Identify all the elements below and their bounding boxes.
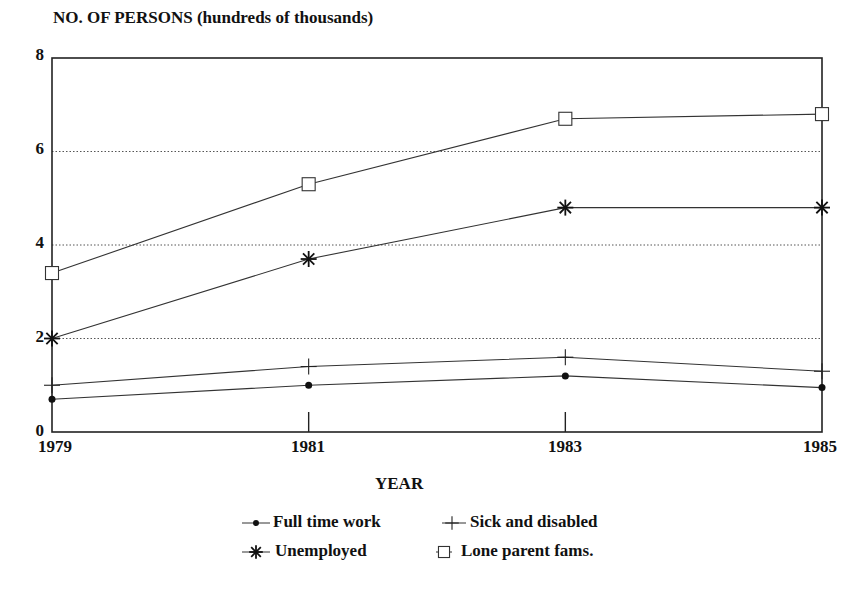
series-line-full-time-work: [52, 376, 822, 399]
marker-full-time-work-1985: [819, 384, 826, 391]
legend-marker-lone-parent-fams-icon: [438, 546, 449, 557]
marker-lone-parent-fams-1985: [816, 108, 829, 121]
plot-area: [0, 0, 865, 592]
legend-label-sick-and-disabled: Sick and disabled: [470, 512, 598, 532]
series-line-lone-parent-fams: [52, 114, 822, 273]
marker-full-time-work-1979: [49, 396, 56, 403]
line-chart: NO. OF PERSONS (hundreds of thousands) 0…: [0, 0, 865, 592]
legend-label-unemployed: Unemployed: [275, 541, 367, 561]
series-line-unemployed: [52, 208, 822, 339]
legend-label-full-time-work: Full time work: [273, 512, 381, 532]
marker-lone-parent-fams-1981: [302, 178, 315, 191]
marker-full-time-work-1981: [305, 382, 312, 389]
marker-lone-parent-fams-1983: [559, 112, 572, 125]
legend-label-lone-parent-fams: Lone parent fams.: [461, 541, 593, 561]
marker-full-time-work-1983: [562, 372, 569, 379]
legend-marker-full-time-work-icon: [253, 520, 259, 526]
marker-lone-parent-fams-1979: [46, 267, 59, 280]
